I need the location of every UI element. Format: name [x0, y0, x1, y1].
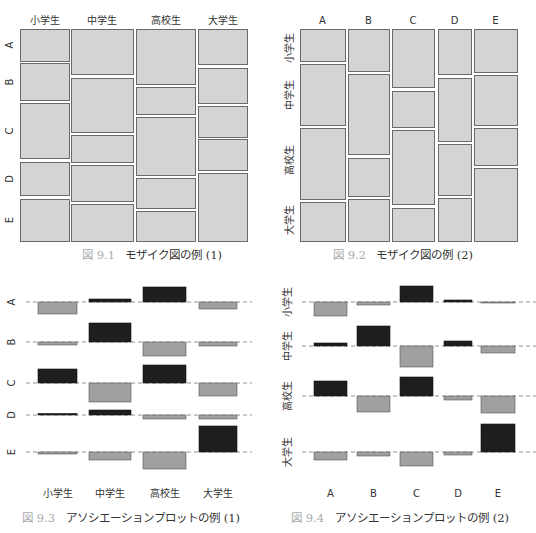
- column-label: E: [495, 488, 501, 499]
- residual-bar: [199, 342, 237, 346]
- mosaic-tile: [21, 163, 70, 196]
- row-label: B: [6, 338, 17, 345]
- mosaic-tile: [475, 169, 518, 242]
- caption-9-2: モザイク図の例 (2): [376, 248, 473, 262]
- column-label: C: [410, 15, 417, 26]
- mosaic-tile: [393, 209, 435, 242]
- mosaic-tile: [21, 64, 70, 101]
- residual-bar: [143, 365, 186, 383]
- row-label: 大学生: [283, 205, 295, 235]
- mosaic-tile: [301, 129, 346, 200]
- figure-canvas: 小学生中学生高校生大学生ABCDE ABCDE小学生中学生高校生大学生 ABCD…: [0, 0, 536, 533]
- row-label: 中学生: [283, 80, 295, 110]
- column-label: 中学生: [87, 14, 117, 26]
- mosaic-tile: [199, 69, 248, 104]
- residual-bar: [89, 323, 131, 342]
- column-label: 大学生: [208, 14, 238, 26]
- residual-bar: [400, 452, 433, 466]
- row-label: 中学生: [281, 331, 293, 361]
- mosaic-tile: [475, 129, 518, 166]
- residual-bar: [314, 381, 347, 396]
- residual-bar: [89, 452, 131, 460]
- column-label: D: [451, 15, 459, 26]
- residual-bar: [481, 396, 515, 413]
- caption-9-1: モザイク図の例 (1): [125, 248, 222, 262]
- caption-number-9-2: 図 9.2: [333, 248, 366, 262]
- caption-9-3: アソシエーションプロットの例 (1): [66, 511, 240, 525]
- mosaic-tile: [72, 30, 134, 75]
- mosaic-tile: [199, 30, 248, 65]
- column-label: 大学生: [203, 487, 233, 499]
- residual-bar: [38, 342, 77, 345]
- mosaic-tile: [349, 30, 390, 72]
- residual-bar: [357, 302, 390, 305]
- residual-bar: [143, 452, 186, 469]
- row-label: 高校生: [281, 381, 293, 411]
- residual-bar: [444, 452, 472, 455]
- residual-bar: [400, 286, 433, 302]
- association-plot-1: ABCDE小学生中学生高校生大学生: [6, 287, 252, 499]
- mosaic-tile: [393, 30, 435, 88]
- column-label: B: [365, 15, 372, 26]
- residual-bar: [199, 383, 237, 396]
- residual-bar: [314, 452, 347, 460]
- residual-bar: [314, 302, 347, 316]
- mosaic-tile: [475, 30, 518, 73]
- row-label: A: [4, 41, 15, 48]
- mosaic-tile: [439, 79, 472, 142]
- row-label: 大学生: [281, 437, 293, 467]
- mosaic-tile: [72, 166, 134, 202]
- mosaic-tile: [72, 136, 134, 163]
- mosaic-tile: [21, 30, 70, 62]
- residual-bar: [89, 410, 131, 415]
- row-label: E: [4, 217, 15, 223]
- residual-bar: [143, 342, 186, 356]
- row-label: 高校生: [283, 145, 295, 175]
- column-label: C: [413, 488, 420, 499]
- mosaic-tile: [72, 79, 134, 133]
- residual-bar: [143, 287, 186, 302]
- residual-bar: [89, 299, 131, 302]
- mosaic-tile: [475, 76, 518, 126]
- row-label: C: [6, 379, 17, 386]
- residual-bar: [400, 377, 433, 396]
- row-label: D: [4, 175, 15, 183]
- caption-number-9-3: 図 9.3: [22, 511, 55, 525]
- residual-bar: [357, 396, 390, 412]
- residual-bar: [38, 414, 77, 416]
- row-label: 小学生: [283, 33, 295, 63]
- residual-bar: [444, 300, 472, 302]
- column-label: 小学生: [43, 487, 73, 499]
- residual-bar: [481, 424, 515, 452]
- residual-bar: [38, 302, 77, 314]
- mosaic-tile: [199, 107, 248, 138]
- residual-bar: [444, 341, 472, 346]
- column-label: E: [492, 15, 498, 26]
- mosaic-tile: [137, 88, 196, 115]
- row-label: 小学生: [281, 287, 293, 317]
- caption-9-4: アソシエーションプロットの例 (2): [335, 511, 509, 525]
- association-plot-2: 小学生中学生高校生大学生ABCDE: [281, 286, 536, 499]
- mosaic-tile: [439, 199, 472, 242]
- residual-bar: [199, 415, 237, 419]
- residual-bar: [400, 346, 433, 367]
- residual-bar: [143, 415, 186, 419]
- mosaic-tile: [349, 200, 390, 242]
- row-label: B: [4, 78, 15, 85]
- mosaic-tile: [137, 212, 196, 242]
- residual-bar: [357, 326, 390, 346]
- mosaic-tile: [301, 30, 346, 62]
- mosaic-tile: [349, 159, 390, 197]
- column-label: 中学生: [95, 487, 125, 499]
- mosaic-tile: [301, 65, 346, 126]
- mosaic-tile: [439, 30, 472, 75]
- row-label: D: [6, 411, 17, 419]
- mosaic-tile: [393, 131, 435, 205]
- column-label: A: [319, 15, 326, 26]
- mosaic-tile: [137, 179, 196, 209]
- column-label: D: [454, 488, 462, 499]
- residual-bar: [38, 369, 77, 383]
- column-label: A: [327, 488, 334, 499]
- residual-bar: [481, 346, 515, 353]
- residual-bar: [199, 302, 237, 309]
